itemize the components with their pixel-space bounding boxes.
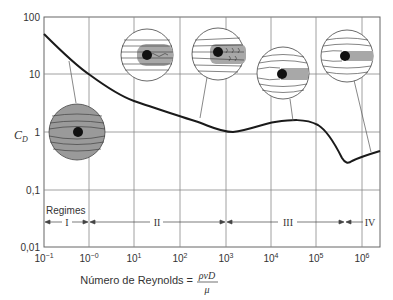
svg-text:103: 103 <box>218 252 233 264</box>
svg-text:10−0: 10−0 <box>79 252 98 264</box>
svg-text:IV: IV <box>365 217 376 228</box>
svg-text:II: II <box>154 217 161 228</box>
svg-text:III: III <box>283 217 293 228</box>
svg-text:0,01: 0,01 <box>21 242 41 253</box>
x-tick-labels: 10−1 10−0 101 102 103 104 105 106 <box>34 252 369 264</box>
flow-circle-2 <box>121 29 173 81</box>
regimes-title: Regimes <box>46 205 85 216</box>
cylinder-icon <box>142 50 152 60</box>
cylinder-icon <box>277 69 287 79</box>
regime-arrows <box>45 220 363 224</box>
svg-text:10: 10 <box>29 69 41 80</box>
cylinder-icon <box>213 47 223 57</box>
flow-circle-3 <box>192 28 246 80</box>
cylinder-icon <box>73 127 83 137</box>
svg-text:102: 102 <box>172 252 187 264</box>
x-axis-label: Número de Reynolds = <box>80 274 193 286</box>
flow-circle-1 <box>49 104 105 160</box>
svg-text:1: 1 <box>34 127 40 138</box>
svg-text:0,1: 0,1 <box>26 185 40 196</box>
drag-coefficient-chart: 100 10 1 0,1 0,01 CD 10−1 10−0 101 102 1… <box>0 0 393 300</box>
x-axis-label-numerator: ρvD <box>198 270 216 281</box>
svg-text:101: 101 <box>126 252 141 264</box>
svg-text:104: 104 <box>263 252 278 264</box>
y-axis-label: CD <box>14 128 28 144</box>
flow-circle-5 <box>321 30 373 82</box>
svg-text:106: 106 <box>354 252 369 264</box>
cylinder-icon <box>340 51 350 61</box>
svg-text:100: 100 <box>23 12 40 23</box>
svg-text:105: 105 <box>308 252 323 264</box>
flow-circle-4 <box>257 47 309 99</box>
y-tick-labels: 100 10 1 0,1 0,01 <box>21 12 41 253</box>
svg-text:I: I <box>65 217 68 228</box>
x-axis-label-denominator: μ <box>203 284 209 295</box>
svg-text:10−1: 10−1 <box>34 252 53 264</box>
